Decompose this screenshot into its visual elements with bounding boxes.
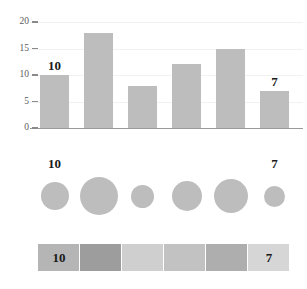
y-tick-label-20: 20: [20, 17, 30, 27]
y-tick-dash-5: [32, 101, 38, 102]
gridline-20: [30, 22, 303, 23]
y-tick-label-5: 5: [24, 97, 29, 107]
bubble-6[interactable]: [264, 186, 285, 207]
y-tick-label-10: 10: [20, 70, 30, 80]
heat-value-label-1: 10: [38, 251, 80, 264]
y-tick-dash-0: [32, 127, 38, 128]
multi-encoding-figure: 20 15 10 5 0 10: [0, 0, 307, 289]
bubble-3[interactable]: [131, 185, 154, 208]
gridline-15: [30, 49, 303, 50]
y-tick-dash-15: [32, 48, 38, 49]
heat-cell-3[interactable]: [122, 244, 164, 271]
heat-cell-4[interactable]: [164, 244, 206, 271]
bar-3[interactable]: [128, 86, 157, 128]
bar-6[interactable]: [260, 91, 289, 128]
bar-2[interactable]: [84, 33, 113, 128]
bar-value-label-1: 10: [40, 59, 69, 72]
bubble-value-label-6: 7: [260, 157, 289, 170]
bar-1[interactable]: [40, 75, 69, 128]
bubble-4[interactable]: [172, 181, 202, 211]
y-tick-label-0: 0: [24, 123, 29, 133]
y-tick-5: 5: [24, 96, 38, 108]
y-tick-dash-10: [32, 74, 38, 75]
bubble-panel: 10 7: [0, 150, 307, 230]
y-tick-label-15: 15: [20, 44, 30, 54]
y-tick-0: 0: [24, 122, 38, 134]
bar-5[interactable]: [216, 49, 245, 129]
heatmap-strip-panel: 10 7: [0, 230, 307, 289]
bar-chart-panel: 20 15 10 5 0 10: [0, 0, 307, 150]
y-tick-20: 20: [20, 16, 39, 28]
y-tick-10: 10: [20, 69, 39, 81]
y-axis: 20 15 10 5 0: [0, 0, 38, 150]
bar-4[interactable]: [172, 64, 201, 128]
x-axis-line: [30, 128, 303, 129]
heat-cell-2[interactable]: [80, 244, 122, 271]
bubble-value-label-1: 10: [40, 157, 69, 170]
bar-value-label-6: 7: [260, 75, 289, 88]
bubble-5[interactable]: [214, 179, 248, 213]
heat-cell-5[interactable]: [206, 244, 248, 271]
bubble-1[interactable]: [41, 182, 69, 210]
bubble-2[interactable]: [80, 177, 118, 215]
y-tick-dash-20: [32, 21, 38, 22]
y-tick-15: 15: [20, 43, 39, 55]
heat-value-label-6: 7: [248, 251, 290, 264]
